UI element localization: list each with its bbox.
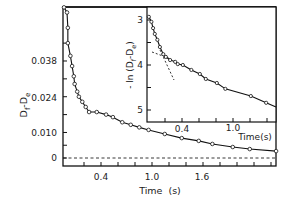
data-point-marker	[248, 147, 252, 151]
inset-ylabel-prefix: - ln (D	[125, 61, 135, 89]
svg-text:Df-De: Df-De	[18, 93, 32, 118]
inset-data-point-marker	[198, 72, 201, 75]
inset-ytick-label: 5	[137, 105, 143, 115]
inset-data-point-marker	[181, 63, 184, 66]
inset-data-point-marker	[204, 77, 207, 80]
main-ytick-label: 0.038	[31, 56, 57, 66]
data-point-marker	[95, 110, 99, 114]
figure: 0.038 0.024 0.010 0 0.4 1.0 1.6 Time (s)…	[0, 0, 288, 206]
inset-ytick-label: 4	[137, 60, 143, 70]
inset-ytick-label: 3	[137, 15, 143, 25]
data-point-marker	[129, 123, 133, 127]
data-point-marker	[65, 11, 69, 15]
data-point-marker	[66, 26, 70, 30]
data-point-marker	[62, 6, 66, 10]
main-xtick-label: 0.4	[94, 172, 109, 182]
inset-data-point-marker	[249, 94, 252, 97]
inset-data-point-marker	[190, 68, 193, 71]
data-point-marker	[84, 105, 88, 109]
data-point-marker	[120, 120, 124, 124]
inset-xtick-label: 0.4	[175, 124, 190, 134]
data-point-marker	[104, 113, 108, 117]
main-x-axis-label: Time (s)	[138, 185, 181, 196]
inset-data-point-marker	[158, 45, 161, 48]
svg-text:- ln (Df-De): - ln (Df-De)	[125, 41, 138, 89]
ylabel-sub-e: e	[24, 93, 32, 97]
data-point-marker	[72, 75, 76, 79]
inset-data-point-marker	[215, 81, 218, 84]
main-ytick-label: 0.024	[31, 93, 57, 103]
inset-data-point-marker	[265, 101, 268, 104]
inset-ylabel-close-paren: )	[125, 41, 135, 45]
data-point-marker	[87, 110, 91, 114]
data-point-marker	[180, 136, 184, 140]
main-xtick-label: 1.6	[195, 172, 210, 182]
main-xtick-label: 1.0	[145, 172, 160, 182]
data-point-marker	[197, 139, 201, 143]
data-point-marker	[66, 41, 70, 45]
data-point-marker	[77, 95, 81, 99]
inset-data-point-marker	[169, 58, 172, 61]
inset-data-point-marker	[224, 87, 227, 90]
data-point-marker	[211, 142, 215, 146]
data-point-marker	[70, 64, 74, 68]
inset-data-point-marker	[176, 63, 179, 66]
data-point-marker	[69, 54, 73, 58]
ylabel-D: D	[18, 110, 29, 117]
data-point-marker	[111, 115, 115, 119]
inset-data-point-marker	[150, 20, 153, 23]
data-point-marker	[81, 100, 85, 104]
inset-data-point-marker	[153, 32, 156, 35]
data-point-marker	[75, 90, 79, 94]
data-point-marker	[137, 126, 141, 130]
inset-frame	[147, 7, 276, 122]
data-point-marker	[231, 145, 235, 149]
data-point-marker	[163, 132, 167, 136]
ylabel-minus-D: -D	[18, 97, 29, 108]
inset-data-point-marker	[147, 15, 150, 18]
inset-data-point-marker	[152, 27, 155, 30]
main-ytick-label: 0.010	[31, 128, 57, 138]
inset-x-axis-label: Time(s)	[237, 132, 272, 142]
inset-data-point-marker	[156, 38, 159, 41]
inset-plot: 3 4 5 0.4 1.0 Time(s) - ln (Df-De)	[125, 7, 276, 142]
inset-ylabel-minus-D: -D	[125, 49, 135, 59]
main-y-axis-label: Df-De	[18, 93, 32, 118]
inset-data-point-marker	[162, 53, 165, 56]
data-point-marker	[274, 149, 278, 153]
inset-y-axis-label: - ln (Df-De)	[125, 41, 138, 89]
inset-data-point-marker	[164, 55, 167, 58]
main-ytick-label: 0	[51, 153, 57, 163]
data-point-marker	[147, 128, 151, 132]
data-point-marker	[73, 82, 77, 86]
